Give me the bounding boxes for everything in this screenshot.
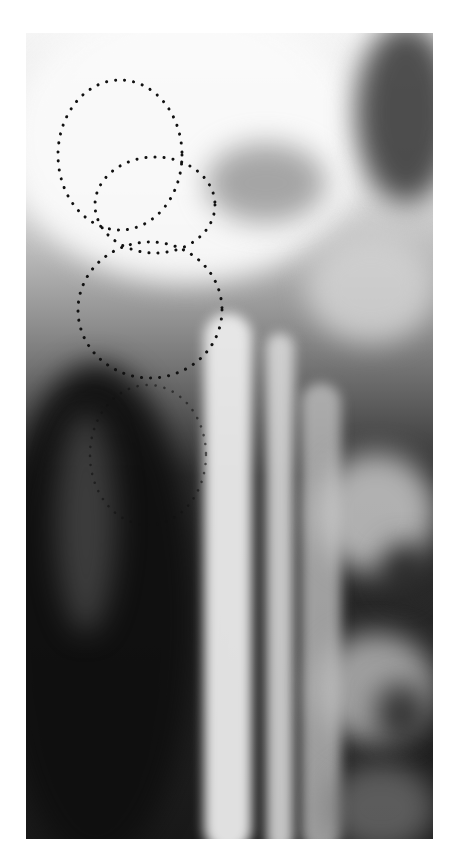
- outline-second: [95, 157, 215, 253]
- outline-upper: [58, 80, 182, 230]
- xray-image: [26, 33, 433, 839]
- outline-third: [78, 242, 222, 378]
- dotted-outlines: [26, 33, 433, 839]
- outline-lower-faint: [90, 385, 206, 525]
